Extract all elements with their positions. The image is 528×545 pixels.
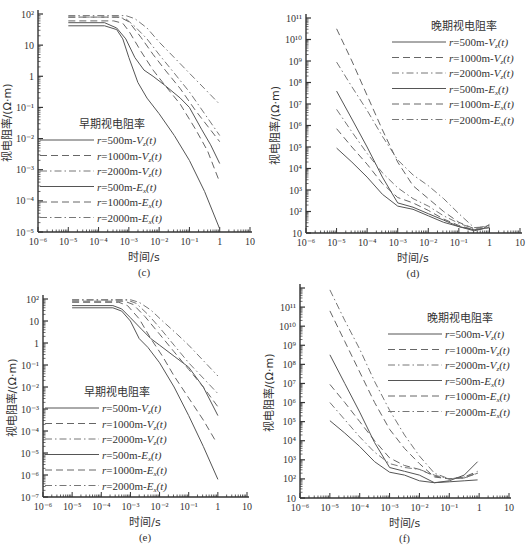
panel-caption: (d) [407, 267, 420, 280]
panel-caption: (f) [399, 532, 410, 545]
legend-label: r=1000m-Vz(t) [97, 150, 162, 164]
legend-label: r=500m-Vz(t) [97, 134, 156, 148]
y-tick-label: 10 [24, 40, 34, 51]
x-tick-label: 10⁻³ [120, 236, 138, 247]
y-tick-label: 10² [26, 294, 39, 305]
y-tick-label: 10 [292, 228, 302, 239]
y-tick-label: 10² [283, 473, 296, 484]
x-tick-label: 10⁻⁶ [297, 237, 316, 248]
legend-label: r=2000m-Ex(t) [97, 212, 162, 226]
panel-caption: (e) [139, 531, 152, 544]
y-tick-label: 10⁵ [289, 142, 303, 153]
y-tick-label: 10 [29, 316, 39, 327]
series-line [337, 91, 490, 231]
x-axis-label: 时间/s [128, 251, 160, 264]
y-tick-label: 10⁻³ [21, 404, 39, 415]
x-tick-label: 10⁻⁵ [59, 236, 78, 247]
series-line [72, 306, 218, 416]
x-tick-label: 10⁻² [410, 502, 428, 513]
y-tick-label: 1 [34, 338, 39, 349]
legend-label: r=1000m-Ex(t) [102, 464, 167, 478]
x-tick-label: 10⁻¹ [180, 501, 198, 512]
legend-label: r=1000m-Ex(t) [97, 196, 162, 210]
y-tick-label: 10² [21, 9, 34, 20]
y-tick-label: 10⁸ [283, 359, 297, 370]
x-tick-label: 10⁻² [419, 237, 437, 248]
series-line [337, 148, 490, 230]
x-tick-label: 10⁻³ [121, 501, 139, 512]
series-line [337, 129, 490, 230]
legend-title: 晚期视电阻率 [427, 311, 493, 325]
legend-title: 早期视电阻率 [84, 385, 150, 399]
y-tick-label: 10¹¹ [280, 302, 296, 313]
x-tick-label: 10⁻³ [389, 237, 407, 248]
x-tick-label: 1 [477, 502, 482, 513]
legend: 晚期视电阻率r=500m-Vz(t)r=1000m-Vz(t)r=2000m-V… [392, 19, 514, 128]
legend-title: 早期视电阻率 [79, 117, 145, 131]
legend: 晚期视电阻率r=500m-Vz(t)r=1000m-Vz(t)r=2000m-V… [388, 311, 510, 420]
legend: 早期视电阻率r=500m-Vz(t)r=1000m-Vz(t)r=2000m-V… [45, 385, 167, 494]
legend-label: r=2000m-Vz(t) [97, 165, 162, 179]
y-tick-label: 10¹⁰ [279, 321, 296, 332]
x-tick-label: 10⁻³ [381, 502, 399, 513]
legend-label: r=1000m-Vz(t) [445, 344, 510, 358]
y-tick-label: 10⁻⁵ [16, 227, 35, 238]
x-tick-label: 10⁻¹ [180, 236, 198, 247]
legend-label: r=2000m-Vz(t) [102, 433, 167, 447]
x-tick-label: 10⁻¹ [450, 237, 468, 248]
x-axis-label: 时间/s [397, 252, 429, 265]
legend-label: r=1000m-Ex(t) [449, 98, 514, 112]
x-tick-label: 10⁻² [150, 236, 168, 247]
series-line [72, 300, 218, 394]
legend-title: 晚期视电阻率 [431, 19, 497, 33]
y-tick-label: 1 [29, 71, 34, 82]
legend-label: r=2000m-Ex(t) [102, 480, 167, 494]
y-tick-label: 10⁻⁴ [21, 426, 40, 437]
y-tick-label: 10⁹ [283, 340, 297, 351]
x-tick-label: 10⁻¹ [440, 502, 458, 513]
y-axis-label: 视电阻率/(Ω·m) [5, 359, 19, 438]
y-tick-label: 10⁶ [289, 120, 303, 131]
legend-label: r=500m-Vz(t) [445, 328, 504, 342]
y-tick-label: 10⁻⁵ [21, 448, 40, 459]
y-tick-label: 10⁻⁷ [21, 492, 40, 503]
x-axis-label: 时间/s [389, 517, 421, 530]
x-tick-label: 1 [215, 501, 220, 512]
x-tick-label: 1 [217, 236, 222, 247]
x-tick-label: 10⁻² [151, 501, 169, 512]
y-tick-label: 10⁻⁶ [21, 470, 40, 481]
chart-c: 10⁻⁶10⁻⁵10⁻⁴10⁻³10⁻²10⁻¹11010⁻⁵10⁻⁴10⁻³1… [0, 9, 255, 280]
legend-label: r=2000m-Ex(t) [449, 114, 514, 128]
x-axis-label: 时间/s [129, 516, 161, 529]
y-tick-label: 10⁻² [21, 382, 39, 393]
x-tick-label: 10⁻⁶ [291, 502, 310, 513]
legend-label: r=1000m-Vz(t) [102, 418, 167, 432]
y-tick-label: 10⁻⁴ [16, 195, 35, 206]
y-tick-label: 10⁷ [283, 378, 297, 389]
y-axis-label: 视电阻率/(Ω·m) [262, 354, 276, 433]
x-tick-label: 10⁻⁴ [92, 501, 111, 512]
x-tick-label: 10⁻⁴ [89, 236, 108, 247]
y-tick-label: 10⁻² [16, 133, 34, 144]
legend-label: r=500m-Ex(t) [102, 449, 162, 463]
x-tick-label: 1 [487, 237, 492, 248]
y-tick-label: 10⁶ [283, 397, 297, 408]
legend-label: r=500m-Vz(t) [449, 36, 508, 50]
series-line [330, 421, 478, 483]
legend: 早期视电阻率r=500m-Vz(t)r=1000m-Vz(t)r=2000m-V… [40, 117, 162, 226]
chart-f: 10⁻⁶10⁻⁵10⁻⁴10⁻³10⁻²10⁻¹1101010²10³10⁴10… [262, 284, 514, 545]
y-tick-label: 10 [286, 493, 296, 504]
y-tick-label: 10⁻¹ [16, 102, 34, 113]
x-tick-label: 10⁻⁴ [358, 237, 377, 248]
x-tick-label: 10⁻⁶ [29, 236, 48, 247]
y-tick-label: 10⁻¹ [21, 360, 39, 371]
y-axis-label: 视电阻率/(Ω·m) [0, 84, 14, 163]
x-tick-label: 10 [504, 502, 514, 513]
y-tick-label: 10⁷ [289, 99, 303, 110]
legend-label: r=500m-Ex(t) [445, 375, 505, 389]
legend-label: r=2000m-Vz(t) [449, 67, 514, 81]
y-axis-label: 视电阻率/(Ω·m) [268, 86, 282, 165]
y-tick-label: 10⁹ [289, 56, 303, 67]
y-tick-label: 10⁻³ [16, 164, 34, 175]
x-tick-label: 10⁻⁵ [321, 502, 340, 513]
